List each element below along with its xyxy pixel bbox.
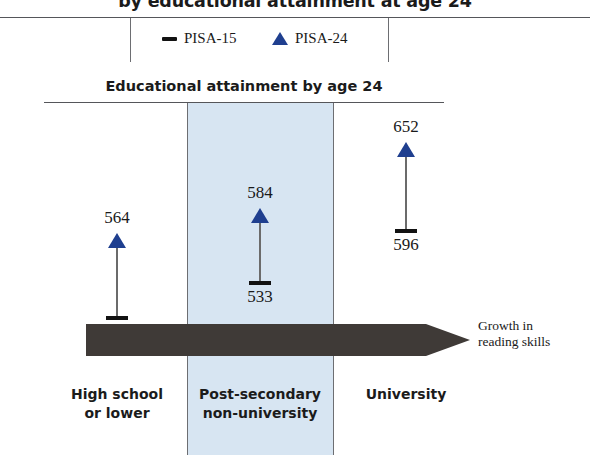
growth-arrow-label-line-1: Growth in (478, 318, 590, 334)
dash-marker-icon (162, 37, 177, 41)
growth-arrow-body (86, 324, 426, 356)
connector-line (259, 223, 261, 281)
category-label-line-2: or lower (44, 404, 190, 423)
legend-item-pisa-15: PISA-15 (162, 30, 237, 47)
legend-separator-right (388, 18, 389, 62)
category-label-line-1: Post-secondary (187, 385, 333, 404)
value-label-pisa-24: 584 (187, 183, 333, 203)
legend-label-pisa-24: PISA-24 (295, 30, 348, 47)
category-label-university: University (333, 385, 479, 404)
growth-arrow-icon (86, 324, 470, 356)
legend-separator-left (130, 18, 131, 62)
triangle-marker-icon (397, 142, 415, 157)
category-label-line-2: non-university (187, 404, 333, 423)
legend-item-pisa-24: PISA-24 (272, 30, 348, 47)
connector-line (405, 157, 407, 229)
triangle-marker-icon (251, 208, 269, 223)
category-label-line-1: High school (44, 385, 190, 404)
value-label-pisa-15: 533 (187, 287, 333, 307)
category-label-high-school: High school or lower (44, 385, 190, 423)
category-label-line-1: University (333, 385, 479, 404)
dash-marker-icon (106, 316, 128, 320)
plot-subtitle: Educational attainment by age 24 (44, 78, 444, 94)
connector-line (116, 248, 118, 316)
chart-title: by educational attainment at age 24 (0, 0, 590, 11)
dash-marker-icon (249, 281, 271, 285)
growth-arrow-head (426, 324, 470, 356)
growth-arrow-label-line-2: reading skills (478, 334, 590, 350)
triangle-marker-icon (272, 32, 288, 45)
value-label-pisa-24: 564 (44, 208, 190, 228)
growth-arrow-label: Growth in reading skills (478, 318, 590, 350)
value-label-pisa-24: 652 (333, 117, 479, 137)
category-label-post-secondary: Post-secondary non-university (187, 385, 333, 423)
legend-label-pisa-15: PISA-15 (184, 30, 237, 47)
value-label-pisa-15: 596 (333, 235, 479, 255)
triangle-marker-icon (108, 233, 126, 248)
chart-legend: PISA-15 PISA-24 (130, 18, 389, 62)
dash-marker-icon (395, 229, 417, 233)
plot-area: Educational attainment by age 24 564 499… (44, 78, 548, 447)
